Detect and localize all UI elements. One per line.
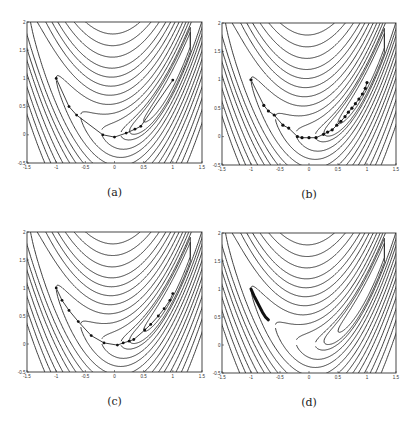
x-tick-label: 1 [366,375,369,380]
y-tick-label: 1 [218,287,221,292]
optimization-path [251,289,268,320]
contour-line [251,150,407,315]
x-tick-label: -1.5 [218,375,226,380]
panel-caption-d: (d) [289,396,329,409]
contour-line [210,94,407,257]
contour-line [210,124,407,287]
panel-d: -1.5-1-0.500.511.5-0.500.511.52(d) [0,0,417,431]
contour-loop [324,238,384,344]
y-tick-label: 0 [218,343,221,348]
x-tick-label: 0.5 [335,375,342,380]
contour-line [210,232,407,411]
y-tick-label: 0.5 [214,315,221,320]
contour-plot-d: -1.5-1-0.500.511.5-0.500.511.52 [0,0,417,431]
contour-line [316,173,408,342]
y-tick-label: 2 [218,231,221,236]
x-tick-label: 0 [308,375,311,380]
contour-line [210,133,407,297]
y-tick-label: 1.5 [214,259,221,264]
contour-line [210,116,407,279]
contour-line [210,82,407,245]
y-tick-label: -0.5 [213,371,221,376]
x-tick-label: -1 [249,375,253,380]
contour-line [210,203,407,394]
x-tick-label: 1.5 [393,375,400,380]
contour-line [210,69,407,232]
contour-line [276,158,408,324]
x-tick-label: -0.5 [276,375,284,380]
